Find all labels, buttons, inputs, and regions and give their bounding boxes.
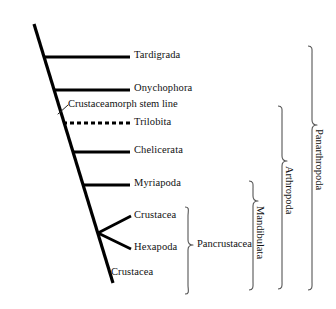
clade-label-panarthropoda: Panarthropoda: [314, 129, 325, 190]
brace-pancrustacea: [185, 207, 193, 294]
taxon-label-crustacea-lower: Crustacea: [111, 267, 153, 278]
cladogram-figure: Tardigrada Onychophora Trilobita Chelice…: [0, 0, 336, 309]
taxon-label-trilobita: Trilobita: [134, 117, 171, 128]
annotation-crustaceamorph-stem-line: Crustaceamorph stem line: [68, 99, 178, 110]
trunk-line: [34, 24, 113, 283]
taxon-label-chelicerata: Chelicerata: [134, 145, 183, 156]
branch-crustacea-upper: [98, 216, 131, 233]
taxon-label-crustacea-upper: Crustacea: [134, 210, 176, 221]
taxon-label-myriapoda: Myriapoda: [134, 178, 181, 189]
clade-label-mandibulata: Mandibulata: [255, 206, 266, 259]
clade-label-pancrustacea: Pancrustacea: [197, 239, 252, 250]
taxon-label-hexapoda: Hexapoda: [134, 242, 177, 253]
taxon-label-onychophora: Onychophora: [134, 83, 192, 94]
taxon-label-tardigrada: Tardigrada: [134, 50, 180, 61]
clade-label-arthropoda: Arthropoda: [284, 166, 295, 214]
